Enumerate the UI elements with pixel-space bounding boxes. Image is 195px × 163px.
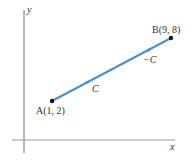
curve-c-label: C	[92, 84, 99, 94]
y-axis-label: y	[27, 5, 31, 15]
curve-segment	[52, 38, 171, 101]
curve-neg-c-label: −C	[143, 55, 156, 65]
x-axis-label: x	[170, 142, 174, 152]
point-a	[50, 99, 54, 103]
point-b	[169, 36, 173, 40]
point-b-label: B(9, 8)	[152, 25, 180, 35]
point-a-label: A(1, 2)	[36, 106, 65, 116]
